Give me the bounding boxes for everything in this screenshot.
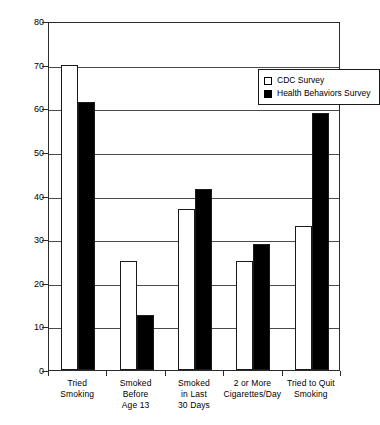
- legend-item-0: CDC Survey: [264, 74, 374, 87]
- bar-cdc-survey-4: [295, 226, 312, 370]
- legend-label-0: CDC Survey: [277, 76, 324, 85]
- bar-cdc-survey-1: [120, 261, 137, 370]
- y-tick-label-10: 10: [14, 323, 44, 332]
- y-tick-label-80: 80: [14, 18, 44, 27]
- y-tick-label-50: 50: [14, 148, 44, 157]
- x-tick-mark-5: [340, 371, 341, 376]
- legend-swatch-open-square-icon: [264, 77, 272, 85]
- x-tick-mark-0: [48, 371, 49, 376]
- x-category-label-4: Tried to Quit Smoking: [276, 378, 346, 400]
- y-tick-label-0: 0: [14, 367, 44, 376]
- y-tick-label-70: 70: [14, 61, 44, 70]
- x-tick-mark-1: [106, 371, 107, 376]
- legend-label-1: Health Behaviors Survey: [277, 89, 371, 98]
- y-tick-label-20: 20: [14, 279, 44, 288]
- x-tick-mark-4: [282, 371, 283, 376]
- bar-health-behaviors-survey-0: [78, 102, 95, 370]
- bar-cdc-survey-0: [61, 65, 78, 370]
- bar-health-behaviors-survey-4: [312, 113, 329, 370]
- y-tick-label-30: 30: [14, 236, 44, 245]
- x-tick-mark-2: [165, 371, 166, 376]
- legend-item-1: Health Behaviors Survey: [264, 87, 374, 100]
- legend: CDC Survey Health Behaviors Survey: [258, 69, 380, 105]
- plot-area: CDC Survey Health Behaviors Survey: [48, 22, 340, 371]
- y-tick-label-40: 40: [14, 192, 44, 201]
- legend-swatch-filled-square-icon: [264, 90, 272, 98]
- bar-health-behaviors-survey-3: [253, 244, 270, 371]
- x-tick-mark-3: [223, 371, 224, 376]
- bar-health-behaviors-survey-2: [195, 189, 212, 370]
- bar-cdc-survey-3: [236, 261, 253, 370]
- bar-health-behaviors-survey-1: [137, 315, 154, 370]
- title-remnant: [28, 0, 148, 7]
- gridline-70: [49, 67, 339, 68]
- bar-cdc-survey-2: [178, 209, 195, 370]
- y-tick-label-60: 60: [14, 105, 44, 114]
